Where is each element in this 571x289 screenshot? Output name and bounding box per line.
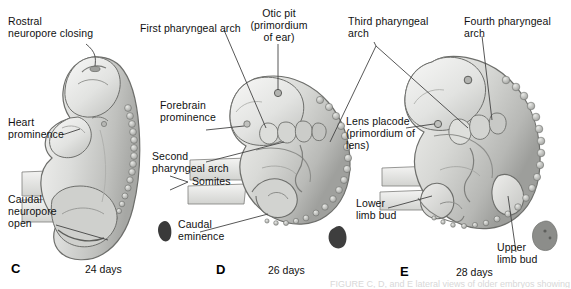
leader-somites-b	[170, 182, 188, 190]
label-caudal-eminence: Caudal eminence	[178, 219, 238, 243]
cut-off-caption: FIGURE C, D, and E lateral views of olde…	[330, 279, 571, 288]
panel-days-d: 26 days	[268, 264, 305, 276]
label-upper-limb-bud: Upper limb bud	[497, 242, 555, 266]
caudal-eminence-d	[252, 179, 297, 218]
lens-placode-e	[434, 120, 441, 127]
label-somites: Somites	[192, 176, 246, 188]
panel-days-c: 24 days	[85, 263, 122, 275]
label-second-pharyngeal-arch: Second pharyngeal arch	[152, 151, 234, 175]
label-first-pharyngeal-arch: First pharyngeal arch	[140, 23, 250, 35]
label-lens-placode: Lens placode (primordium of lens)	[346, 116, 434, 151]
otic-pit-e	[464, 76, 472, 84]
lower-limb-bud-e	[421, 183, 454, 218]
pharyngeal-arch-marker-c	[101, 121, 106, 126]
panel-letter-e: E	[400, 264, 409, 279]
leader-somites-a	[170, 176, 188, 182]
panel-letter-c: C	[11, 261, 20, 276]
actual-size-embryo-d	[329, 226, 347, 248]
actual-size-embryo-c	[158, 221, 171, 241]
embryology-figure: Rostral neuropore closing Heart prominen…	[0, 0, 571, 289]
label-third-pharyngeal-arch: Third pharyngeal arch	[348, 16, 446, 40]
label-caudal-neuropore: Caudal neuropore open	[8, 194, 80, 229]
label-heart-prominence: Heart prominence	[8, 117, 88, 141]
panel-letter-d: D	[216, 262, 225, 277]
forebrain-prominence-d	[244, 121, 250, 127]
rostral-neuropore-c	[90, 66, 100, 71]
label-otic-pit: Otic pit (primordium of ear)	[235, 8, 323, 43]
label-lower-limb-bud: Lower limb bud	[356, 198, 414, 222]
panel-days-e: 28 days	[456, 266, 493, 278]
label-rostral-neuropore: Rostral neuropore closing	[8, 16, 113, 40]
label-fourth-pharyngeal-arch: Fourth pharyngeal arch	[464, 16, 566, 40]
leader-third-arch-stub	[374, 42, 376, 46]
otic-pit-d	[274, 89, 281, 96]
label-forebrain-prominence: Forebrain prominence	[160, 100, 236, 124]
